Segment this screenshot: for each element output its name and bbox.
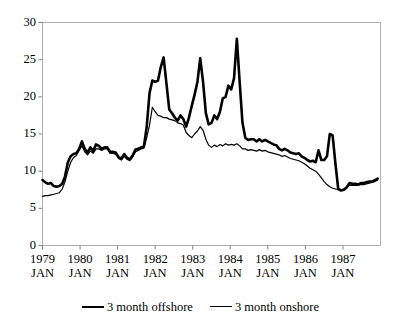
y-axis-tick-label: 15 bbox=[12, 127, 36, 140]
legend-item-offshore: 3 month offshore bbox=[82, 299, 193, 314]
y-axis-tick-label: 30 bbox=[12, 16, 36, 29]
legend-line-icon-offshore bbox=[82, 306, 104, 308]
y-axis-tick-label: 5 bbox=[12, 201, 36, 214]
x-axis-ticks bbox=[43, 246, 343, 250]
x-axis-tick-month: JAN bbox=[320, 266, 366, 280]
y-axis-tick-label: 25 bbox=[12, 53, 36, 66]
x-axis-tick-label: 1987JAN bbox=[320, 252, 366, 280]
y-axis-tick-label: 0 bbox=[12, 239, 36, 252]
chart-legend: 3 month offshore 3 month onshore bbox=[0, 298, 401, 314]
y-axis-tick-label: 10 bbox=[12, 164, 36, 177]
legend-label-offshore: 3 month offshore bbox=[107, 300, 193, 314]
legend-item-onshore: 3 month onshore bbox=[210, 299, 319, 314]
legend-line-icon-onshore bbox=[210, 306, 232, 307]
x-axis-tick-year: 1987 bbox=[320, 252, 366, 266]
chart-figure: 051015202530 1979JAN1980JAN1981JAN1982JA… bbox=[0, 0, 401, 319]
y-axis-ticks bbox=[39, 23, 43, 246]
y-axis-tick-label: 20 bbox=[12, 90, 36, 103]
legend-label-onshore: 3 month onshore bbox=[235, 300, 319, 314]
